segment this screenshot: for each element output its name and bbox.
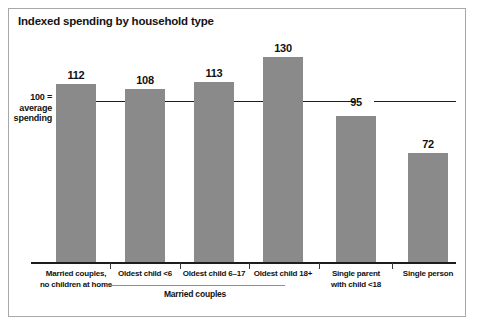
bar-value-label: 95 (336, 96, 376, 108)
bar-oldest-child-18-plus (263, 57, 303, 262)
category-label-line: Single person (383, 268, 473, 279)
bar-chart-plot-area: 100 = average spending 112 108 113 130 9… (0, 0, 478, 331)
bar-value-label: 72 (408, 138, 448, 150)
bar-married-couples-no-children (56, 84, 96, 262)
bar-value-label: 113 (194, 67, 234, 79)
category-label-single-person: Single person (383, 268, 473, 279)
bar-single-parent-child-under-18 (336, 116, 376, 262)
bar-oldest-child-6-17 (194, 82, 234, 262)
reference-line-label-line-2: average (0, 103, 52, 114)
bar-value-label: 130 (263, 42, 303, 54)
bar-oldest-child-under-6 (125, 89, 165, 262)
group-bracket-label: Married couples (105, 289, 285, 299)
reference-line-label-line-1: 100 = (0, 92, 52, 103)
category-label-line: with child <18 (311, 279, 401, 290)
reference-line-segment-right (374, 101, 456, 102)
bar-single-person (408, 153, 448, 262)
group-bracket-rule (105, 285, 285, 286)
bar-value-label: 108 (125, 74, 165, 86)
reference-line-label-line-3: spending (0, 113, 52, 124)
bar-value-label: 112 (56, 69, 96, 81)
reference-line-label: 100 = average spending (0, 92, 52, 124)
